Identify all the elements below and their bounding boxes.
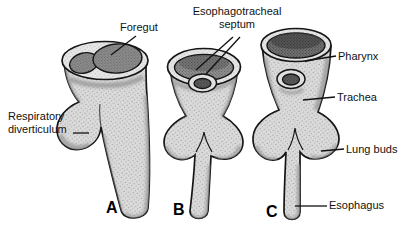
stage-letter-b: B [173, 202, 185, 218]
label-pharynx: Pharynx [338, 50, 378, 63]
stage-b-drawing [164, 49, 243, 219]
label-respiratory-diverticulum: Respiratory diverticulum [8, 110, 88, 136]
stage-letter-a: A [106, 200, 118, 216]
label-esophagus: Esophagus [329, 199, 384, 212]
label-esophagotracheal-septum: Esophagotracheal septum [186, 5, 288, 31]
label-trachea: Trachea [337, 91, 377, 104]
label-lung-buds: Lung buds [346, 143, 397, 156]
stage-letter-c: C [266, 204, 278, 220]
embryo-respiratory-figure: Foregut Esophagotracheal septum Respirat… [0, 0, 404, 227]
label-foregut: Foregut [120, 21, 158, 34]
